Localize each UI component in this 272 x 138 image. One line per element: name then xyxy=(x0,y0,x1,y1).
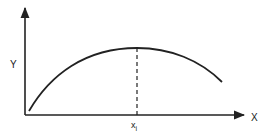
diagram-canvas: Y X xi xyxy=(0,0,272,138)
y-axis-label: Y xyxy=(10,59,17,70)
marker-label-sub: i xyxy=(136,125,138,132)
x-axis-label: X xyxy=(251,112,258,123)
marker-label: xi xyxy=(131,120,138,132)
curve xyxy=(29,48,222,111)
